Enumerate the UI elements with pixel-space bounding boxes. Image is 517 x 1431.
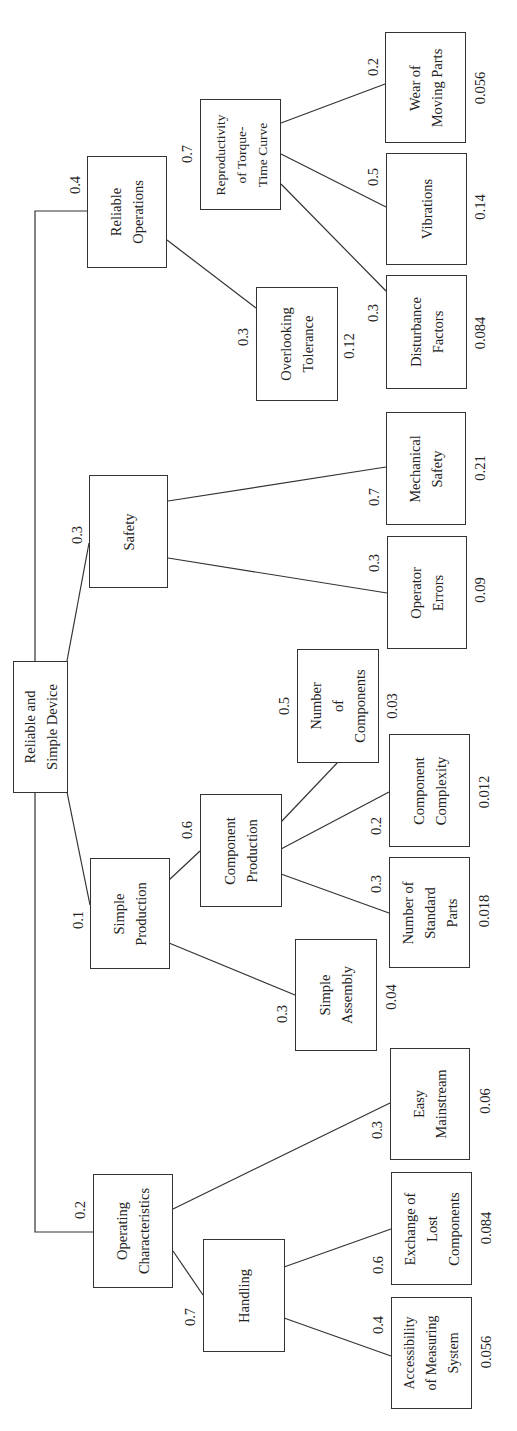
node-mechanical-safety: Mechanical Safety: [386, 412, 466, 525]
node-label: Handling: [233, 1269, 255, 1323]
weight-simple-assembly: 0.3: [274, 1005, 291, 1023]
global-weight-overlooking-tolerance: 0.12: [341, 333, 358, 358]
node-label: Safety: [118, 513, 140, 550]
weight-component-complexity: 0.2: [368, 817, 385, 835]
node-handling: Handling: [203, 1239, 285, 1352]
weight-vibrations: 0.5: [365, 168, 382, 186]
global-weight-exchange-of-lost-components: 0.084: [478, 1212, 495, 1245]
node-label: Component Production: [219, 817, 263, 885]
node-simple-production: Simple Production: [90, 858, 170, 969]
node-reliable-operations: Reliable Operations: [87, 156, 167, 268]
global-weight-disturbance-factors: 0.084: [472, 317, 489, 350]
node-label: Overlooking Tolerance: [275, 307, 319, 380]
node-label: Operating Characteristics: [111, 1188, 155, 1274]
node-label: Accessibility of Measuring System: [399, 1315, 465, 1390]
node-label: Reproductivity of Torque- Time Curve: [209, 114, 272, 195]
node-exchange-of-lost-components: Exchange of Lost Components: [391, 1172, 472, 1285]
weight-safety: 0.3: [69, 526, 86, 544]
weight-reproductivity: 0.7: [179, 145, 196, 163]
node-number-of-components: Number of Components: [297, 649, 379, 763]
node-label: Simple Assembly: [314, 966, 358, 1024]
weight-reliable-operations: 0.4: [67, 176, 84, 194]
node-label: Exchange of Lost Components: [399, 1192, 465, 1265]
weight-number-of-standard-parts: 0.3: [368, 875, 385, 893]
node-label: Number of Components: [305, 669, 371, 742]
weight-accessibility: 0.4: [370, 1316, 387, 1334]
weight-easy-mainstream: 0.3: [369, 1121, 386, 1139]
weight-operator-errors: 0.3: [366, 554, 383, 572]
node-operator-errors: Operator Errors: [387, 536, 467, 649]
weight-overlooking-tolerance: 0.3: [235, 328, 252, 346]
weight-wear-of-moving-parts: 0.2: [365, 58, 382, 76]
node-operating-characteristics: Operating Characteristics: [93, 1174, 173, 1288]
node-wear-of-moving-parts: Wear of Moving Parts: [385, 32, 466, 143]
node-label: Mechanical Safety: [404, 435, 448, 503]
global-weight-number-of-components: 0.03: [384, 693, 401, 718]
node-label: Operator Errors: [405, 567, 449, 619]
node-disturbance-factors: Disturbance Factors: [386, 275, 467, 389]
weight-handling: 0.7: [182, 1308, 199, 1326]
node-safety: Safety: [89, 475, 168, 588]
node-component-complexity: Component Complexity: [389, 734, 470, 847]
global-weight-operator-errors: 0.09: [472, 577, 489, 602]
node-label: Number of Standard Parts: [397, 881, 463, 944]
node-accessibility-of-measuring-system: Accessibility of Measuring System: [391, 1297, 472, 1409]
global-weight-easy-mainstream: 0.06: [477, 1088, 494, 1113]
weight-component-production: 0.6: [179, 821, 196, 839]
weight-simple-production: 0.1: [70, 911, 87, 929]
node-label: Reliable Operations: [105, 180, 149, 244]
node-root: Reliable and Simple Device: [13, 661, 68, 793]
weight-number-of-components: 0.5: [276, 697, 293, 715]
node-label: Vibrations: [416, 179, 438, 239]
weight-exchange-of-lost-components: 0.6: [370, 1256, 387, 1274]
node-vibrations: Vibrations: [386, 153, 467, 265]
node-label: Component Complexity: [408, 756, 452, 824]
node-component-production: Component Production: [200, 794, 282, 907]
weight-operating-characteristics: 0.2: [72, 1201, 89, 1219]
global-weight-simple-assembly: 0.04: [383, 984, 400, 1009]
node-overlooking-tolerance: Overlooking Tolerance: [256, 287, 338, 401]
global-weight-number-of-standard-parts: 0.018: [476, 895, 493, 928]
node-simple-assembly: Simple Assembly: [295, 939, 377, 1051]
global-weight-mechanical-safety: 0.21: [472, 455, 489, 480]
node-label: Disturbance Factors: [405, 297, 449, 367]
weight-mechanical-safety: 0.7: [366, 488, 383, 506]
node-number-of-standard-parts: Number of Standard Parts: [389, 857, 470, 968]
global-weight-wear-of-moving-parts: 0.056: [472, 72, 489, 105]
node-easy-mainstream: Easy Mainstream: [390, 1048, 470, 1160]
global-weight-vibrations: 0.14: [472, 194, 489, 219]
weight-disturbance-factors: 0.3: [365, 304, 382, 322]
global-weight-component-complexity: 0.012: [476, 776, 493, 809]
global-weight-accessibility: 0.056: [478, 1336, 495, 1369]
node-label: Easy Mainstream: [408, 1069, 452, 1138]
node-reproductivity: Reproductivity of Torque- Time Curve: [200, 99, 281, 210]
node-label: Reliable and Simple Device: [19, 684, 63, 770]
node-label: Wear of Moving Parts: [404, 48, 448, 127]
node-label: Simple Production: [108, 882, 152, 946]
